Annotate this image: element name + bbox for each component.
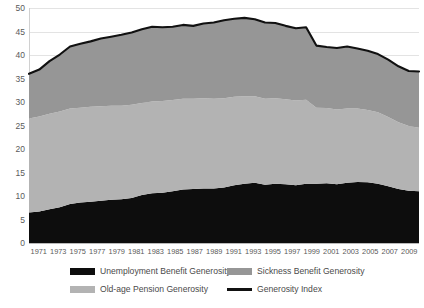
legend-swatch-unemployment bbox=[70, 268, 95, 275]
series-layer bbox=[0, 0, 424, 250]
x-axis-tick-label: 1993 bbox=[244, 244, 264, 260]
x-axis-tick-label: 1989 bbox=[205, 244, 225, 260]
x-axis-tick-label: 1995 bbox=[263, 244, 283, 260]
legend-item-generosity-index: Generosity Index bbox=[227, 284, 322, 294]
x-axis-tick-label: 2005 bbox=[361, 244, 381, 260]
legend-label-sickness: Sickness Benefit Generosity bbox=[257, 266, 364, 276]
x-axis-tick-label: 1997 bbox=[283, 244, 303, 260]
legend-swatch-old-age-pension bbox=[70, 286, 95, 293]
legend-item-sickness-benefit-generosity: Sickness Benefit Generosity bbox=[227, 266, 364, 276]
x-axis-tick-label: 2009 bbox=[400, 244, 420, 260]
x-axis-tick-labels: 1971197319751977197919811983198519871989… bbox=[29, 244, 419, 260]
x-axis-tick-label: 1979 bbox=[107, 244, 127, 260]
legend-swatch-sickness bbox=[227, 268, 252, 275]
x-axis-tick-label: 1973 bbox=[49, 244, 69, 260]
legend-label-generosity-index: Generosity Index bbox=[257, 284, 322, 294]
x-axis-tick-label: 1975 bbox=[68, 244, 88, 260]
x-axis-tick-label: 1977 bbox=[88, 244, 108, 260]
legend-swatch-generosity-index bbox=[227, 288, 252, 291]
x-axis-tick-label: 2007 bbox=[380, 244, 400, 260]
x-axis-tick-label: 1987 bbox=[185, 244, 205, 260]
generosity-area-chart: 05101520253035404550 1971197319751977197… bbox=[0, 0, 424, 308]
x-axis-tick-label: 2001 bbox=[322, 244, 342, 260]
x-axis-tick-label: 1999 bbox=[302, 244, 322, 260]
legend-label-unemployment: Unemployment Benefit Generosity bbox=[100, 266, 231, 276]
x-axis-tick-label: 1991 bbox=[224, 244, 244, 260]
legend-item-unemployment-benefit-generosity: Unemployment Benefit Generosity bbox=[70, 266, 231, 276]
legend-item-old-age-pension-generosity: Old-age Pension Generosity bbox=[70, 284, 208, 294]
x-axis-tick-label: 2003 bbox=[341, 244, 361, 260]
chart-legend: Unemployment Benefit Generosity Sickness… bbox=[0, 262, 424, 306]
stacked-areas bbox=[29, 18, 419, 243]
plot-area: 05101520253035404550 bbox=[0, 0, 424, 250]
legend-label-old-age-pension: Old-age Pension Generosity bbox=[100, 284, 208, 294]
x-axis-tick-label: 1983 bbox=[146, 244, 166, 260]
x-axis-tick-label: 1985 bbox=[166, 244, 186, 260]
x-axis-tick-label: 1981 bbox=[127, 244, 147, 260]
x-axis-tick-label: 1971 bbox=[29, 244, 49, 260]
